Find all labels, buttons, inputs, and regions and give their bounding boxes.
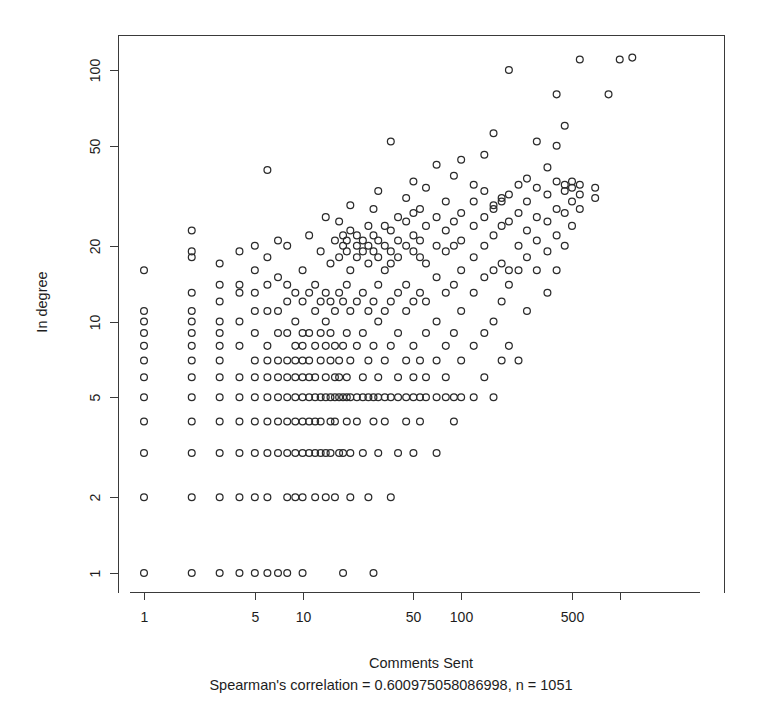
- data-point: [370, 298, 377, 305]
- data-point: [284, 450, 291, 457]
- data-point: [381, 267, 388, 274]
- data-point: [188, 227, 195, 234]
- data-point: [370, 248, 377, 255]
- data-point: [216, 260, 223, 267]
- data-point: [216, 494, 223, 501]
- data-point: [375, 237, 382, 244]
- data-point: [141, 450, 148, 457]
- data-point: [410, 298, 417, 305]
- data-point: [264, 357, 271, 364]
- data-point: [236, 318, 243, 325]
- x-axis-ticks: [130, 592, 700, 600]
- data-point: [251, 494, 258, 501]
- data-point: [275, 418, 282, 425]
- data-point: [470, 394, 477, 401]
- data-point: [533, 267, 540, 274]
- data-point: [553, 267, 560, 274]
- data-point: [359, 450, 366, 457]
- data-point: [141, 318, 148, 325]
- data-point: [359, 248, 366, 255]
- data-point: [387, 494, 394, 501]
- data-point: [264, 281, 271, 288]
- data-point: [481, 151, 488, 158]
- data-point: [347, 267, 354, 274]
- data-point: [381, 308, 388, 315]
- data-point: [141, 394, 148, 401]
- data-point: [299, 330, 306, 337]
- data-point: [275, 308, 282, 315]
- data-point: [481, 374, 488, 381]
- data-point: [216, 570, 223, 577]
- data-point: [275, 450, 282, 457]
- data-point: [299, 342, 306, 349]
- data-point: [251, 242, 258, 249]
- data-point: [336, 357, 343, 364]
- data-point: [387, 138, 394, 145]
- data-point: [322, 494, 329, 501]
- data-point: [403, 394, 410, 401]
- data-point: [544, 248, 551, 255]
- data-point: [340, 298, 347, 305]
- data-point: [506, 342, 513, 349]
- data-point: [188, 570, 195, 577]
- data-point: [141, 267, 148, 274]
- data-point: [490, 232, 497, 239]
- data-point: [576, 181, 583, 188]
- data-point: [299, 267, 306, 274]
- data-point: [410, 248, 417, 255]
- data-point: [458, 156, 465, 163]
- y-axis-title: In degree: [34, 271, 50, 332]
- data-point: [481, 330, 488, 337]
- data-point: [387, 342, 394, 349]
- data-point: [375, 254, 382, 261]
- data-point: [236, 494, 243, 501]
- data-point: [533, 184, 540, 191]
- data-point: [299, 494, 306, 501]
- y-tick-label: 50: [87, 139, 103, 155]
- data-point: [327, 357, 334, 364]
- data-point: [216, 330, 223, 337]
- data-point: [470, 181, 477, 188]
- data-point: [395, 394, 402, 401]
- data-point: [322, 318, 329, 325]
- data-point: [433, 242, 440, 249]
- data-point: [451, 172, 458, 179]
- data-point: [498, 222, 505, 229]
- data-point: [251, 374, 258, 381]
- data-point: [292, 289, 299, 296]
- data-point: [375, 318, 382, 325]
- data-point: [506, 281, 513, 288]
- data-point: [498, 357, 505, 364]
- data-point: [451, 394, 458, 401]
- data-point: [284, 298, 291, 305]
- data-point: [490, 267, 497, 274]
- data-point: [299, 357, 306, 364]
- data-point: [515, 242, 522, 249]
- data-point: [216, 418, 223, 425]
- data-point: [327, 450, 334, 457]
- data-point: [264, 254, 271, 261]
- data-point: [533, 214, 540, 221]
- data-point: [264, 418, 271, 425]
- data-point: [359, 374, 366, 381]
- scatter-plot-figure: 125102050100 151050100500 In degree Comm…: [0, 0, 763, 723]
- data-point: [451, 418, 458, 425]
- data-point: [458, 308, 465, 315]
- data-point: [423, 260, 430, 267]
- data-point: [498, 298, 505, 305]
- data-point: [561, 188, 568, 195]
- data-point: [347, 450, 354, 457]
- data-point: [292, 494, 299, 501]
- data-point: [343, 248, 350, 255]
- data-point: [403, 418, 410, 425]
- data-point: [188, 308, 195, 315]
- data-point: [375, 450, 382, 457]
- data-point: [332, 494, 339, 501]
- data-point: [236, 374, 243, 381]
- data-point: [327, 260, 334, 267]
- data-point: [188, 330, 195, 337]
- data-point: [395, 237, 402, 244]
- data-point: [553, 178, 560, 185]
- data-point: [141, 374, 148, 381]
- data-point: [317, 330, 324, 337]
